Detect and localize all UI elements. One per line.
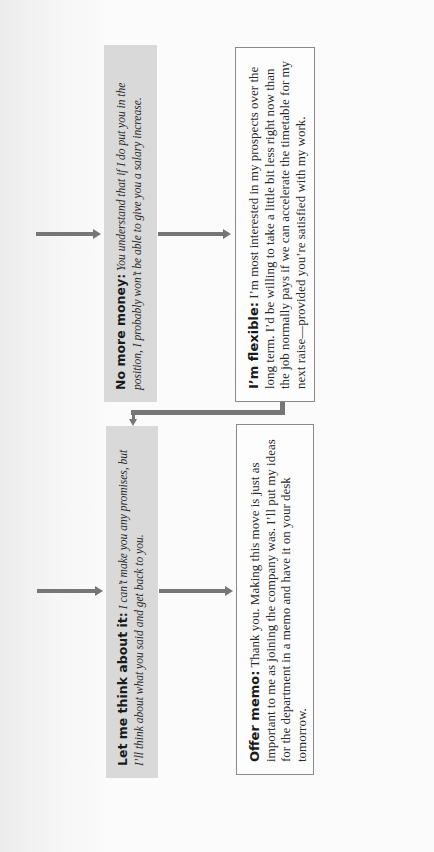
elbow-arrowhead-icon [129, 419, 137, 426]
flowchart-rotated: No more money: You understand that if I … [0, 0, 434, 852]
im-flexible-label: I’m flexible: [246, 302, 261, 389]
no-more-money-box: No more money: You understand that if I … [104, 45, 157, 402]
offer-memo-box: Offer memo: Thank you. Making this move … [236, 424, 314, 775]
arrow-think-to-offer-memo-icon [159, 589, 226, 593]
let-me-think-label: Let me think about it: [115, 612, 130, 766]
incoming-arrow-row1-icon [36, 232, 94, 236]
arrow-no-more-money-to-flexible-icon [158, 232, 224, 236]
im-flexible-box: I’m flexible: I’m most interested in my … [235, 47, 315, 402]
offer-memo-label: Offer memo: [247, 671, 262, 762]
let-me-think-box: Let me think about it: I can’t make you … [106, 426, 158, 778]
no-more-money-label: No more money: [113, 274, 128, 390]
elbow-connector-horizontal [131, 410, 285, 415]
incoming-arrow-row2-icon [37, 589, 96, 593]
